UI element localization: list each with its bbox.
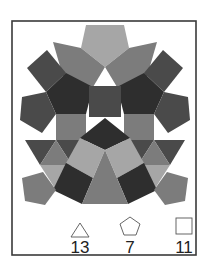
legend-item-square: 11 xyxy=(175,218,193,257)
triangle-count: 13 xyxy=(71,238,90,257)
pentagon-count: 7 xyxy=(125,238,134,257)
square-shape xyxy=(124,114,154,140)
mosaic-shapes xyxy=(20,25,190,205)
square-icon xyxy=(176,218,192,234)
mosaic-figure: 13 7 11 xyxy=(0,0,210,272)
square-count: 11 xyxy=(175,238,193,257)
square-shape xyxy=(56,114,86,140)
square-shape xyxy=(89,86,121,117)
